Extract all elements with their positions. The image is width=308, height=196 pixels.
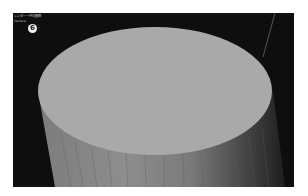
scene-canvas bbox=[13, 13, 294, 187]
guide-line bbox=[263, 13, 275, 57]
step-number-badge: 6 bbox=[28, 24, 37, 33]
render-viewport[interactable]: レンダー・中の画面 Camera 6 bbox=[13, 13, 294, 187]
viewport-title-label: レンダー・中の画面 bbox=[14, 14, 41, 18]
viewport-camera-label: Camera bbox=[14, 19, 26, 23]
cylinder-top-face bbox=[38, 27, 272, 155]
